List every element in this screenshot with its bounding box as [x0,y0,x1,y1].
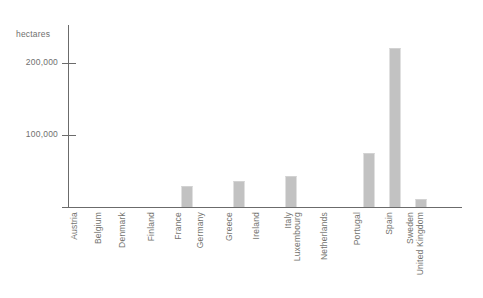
x-axis-category-label: Sweden [405,212,415,244]
x-axis-category-label: Luxembourg [292,212,302,261]
y-axis-tick-label-text: 100,000 [26,129,58,139]
x-axis-label-slot: Greece [226,208,252,296]
bar[interactable] [182,186,193,207]
bar-slot[interactable] [408,25,434,207]
x-axis-category-label: Greece [224,212,234,241]
bar-slot[interactable] [382,25,408,207]
x-axis-label-slot: Portugal [356,208,382,296]
bar-slot[interactable] [252,25,278,207]
x-axis-category-label: France [173,212,183,240]
x-axis-category-label: Spain [384,212,394,235]
y-axis-tick-label: 100,000 [0,129,58,140]
bar-slot[interactable] [356,25,382,207]
bar[interactable] [234,181,245,207]
bar[interactable] [364,153,375,207]
bar-slot[interactable] [200,25,226,207]
x-axis-category-label: Germany [195,212,205,248]
bar-slot[interactable] [96,25,122,207]
bar[interactable] [390,48,401,207]
x-axis-category-label: Portugal [352,212,362,245]
x-axis-category-label: Belgium [93,212,103,244]
plot-area [68,25,462,207]
x-axis-category-label: Denmark [117,212,127,248]
bar-slot[interactable] [226,25,252,207]
y-axis-tick-label-text: 200,000 [26,57,58,67]
x-axis-label-slot: Denmark [122,208,148,296]
bar-slot[interactable] [304,25,330,207]
x-axis-category-label: Finland [146,212,156,241]
bar-slot[interactable] [174,25,200,207]
bar[interactable] [416,199,427,207]
x-axis-label-slot: Germany [200,208,226,296]
x-axis-category-label: Austria [69,212,79,240]
x-axis-label-slot: Finland [148,208,174,296]
bar-slot[interactable] [122,25,148,207]
x-axis-label-slot: Ireland [252,208,278,296]
y-axis-tick-label: 200,000 [0,57,58,68]
x-axis-category-label: Italy [283,212,293,229]
bar-chart: hectares 100,000200,000 AustriaBelgiumDe… [0,0,483,298]
x-axis-category-label: Ireland [251,212,261,239]
x-axis-labels: AustriaBelgiumDenmarkFinlandFranceGerman… [68,208,462,296]
bar-slot[interactable] [330,25,356,207]
y-axis-unit-caption: hectares [16,29,50,39]
bar[interactable] [286,176,297,207]
x-axis-category-label: Netherlands [319,212,329,260]
bar-slot[interactable] [434,25,460,207]
bar-slot[interactable] [278,25,304,207]
x-axis-category-label: United Kingdom [415,212,425,275]
bar-slot[interactable] [148,25,174,207]
x-axis-label-slot: United Kingdom [434,208,460,296]
bar-slot[interactable] [70,25,96,207]
